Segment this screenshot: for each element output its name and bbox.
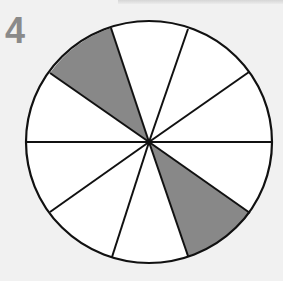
fraction-circle xyxy=(0,0,283,281)
center-point xyxy=(147,140,152,145)
